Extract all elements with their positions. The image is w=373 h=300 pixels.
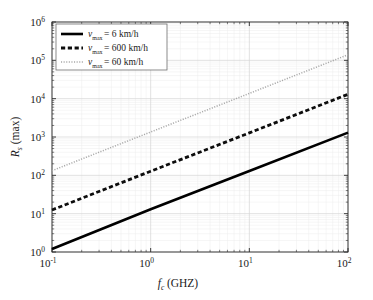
chart-canvas: 10-1100101102 100101102103104105106 fc(G… [0, 0, 373, 300]
chart-legend: vmax= 6 km/hvmax= 600 km/hvmax= 60 km/h [56, 24, 167, 70]
chart-figure: 10-1100101102 100101102103104105106 fc(G… [0, 0, 373, 300]
